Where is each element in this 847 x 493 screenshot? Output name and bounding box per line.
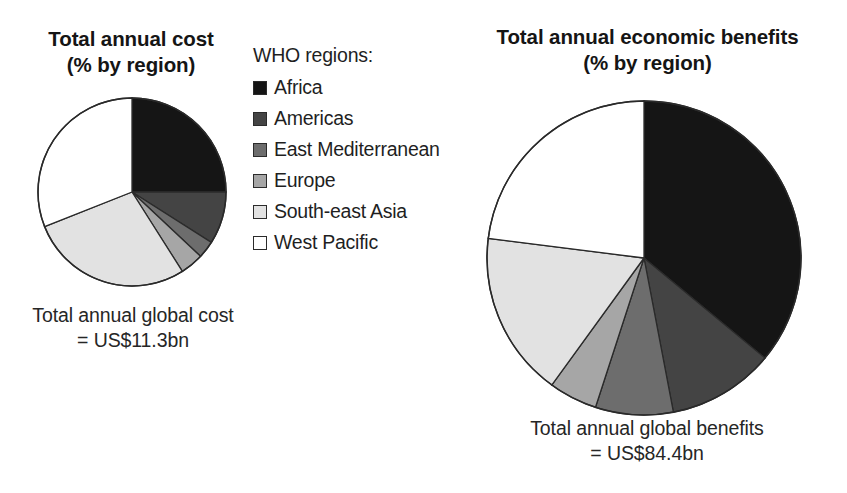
left-chart-title: Total annual cost (% by region) — [6, 26, 256, 78]
right-pie-slices — [487, 101, 801, 415]
left-caption-total: = US$11.3bn — [2, 328, 264, 353]
right-caption-total: = US$84.4bn — [452, 441, 842, 466]
legend-item-south-east-asia[interactable]: South-east Asia — [253, 196, 458, 227]
right-pie-chart — [485, 99, 803, 417]
legend-label-south-east-asia: South-east Asia — [274, 200, 407, 223]
legend-swatch-africa — [253, 81, 267, 95]
legend-label-africa: Africa — [274, 76, 322, 99]
pie-slice-africa — [132, 98, 226, 192]
pie-slice-west-pacific — [488, 101, 644, 258]
legend-swatch-south-east-asia — [253, 205, 267, 219]
legend-item-east-mediterranean[interactable]: East Mediterranean — [253, 134, 458, 165]
left-chart-caption: Total annual global cost = US$11.3bn — [2, 303, 264, 354]
legend-item-africa[interactable]: Africa — [253, 72, 458, 103]
legend-swatch-europe — [253, 174, 267, 188]
legend-label-east-mediterranean: East Mediterranean — [274, 138, 440, 161]
legend-swatch-east-mediterranean — [253, 143, 267, 157]
right-chart-title-line2: (% by region) — [583, 51, 712, 74]
right-chart-title-line1: Total annual economic benefits — [497, 25, 799, 48]
right-chart-caption: Total annual global benefits = US$84.4bn — [452, 416, 842, 467]
legend: WHO regions: Africa Americas East Medite… — [253, 44, 458, 258]
left-chart-title-line1: Total annual cost — [48, 27, 213, 50]
right-pie-svg — [485, 99, 803, 417]
left-pie-slices — [38, 98, 226, 286]
left-pie-svg — [36, 96, 228, 288]
legend-label-west-pacific: West Pacific — [274, 231, 378, 254]
left-caption-line1: Total annual global cost — [32, 304, 233, 326]
legend-swatch-americas — [253, 112, 267, 126]
right-caption-line1: Total annual global benefits — [530, 417, 764, 439]
legend-swatch-west-pacific — [253, 236, 267, 250]
left-chart-title-line2: (% by region) — [67, 53, 196, 76]
legend-label-americas: Americas — [274, 107, 353, 130]
legend-item-europe[interactable]: Europe — [253, 165, 458, 196]
left-pie-chart — [36, 96, 228, 288]
legend-item-americas[interactable]: Americas — [253, 103, 458, 134]
right-chart-title: Total annual economic benefits (% by reg… — [455, 24, 840, 76]
legend-label-europe: Europe — [274, 169, 335, 192]
legend-title: WHO regions: — [253, 44, 458, 67]
legend-item-west-pacific[interactable]: West Pacific — [253, 227, 458, 258]
